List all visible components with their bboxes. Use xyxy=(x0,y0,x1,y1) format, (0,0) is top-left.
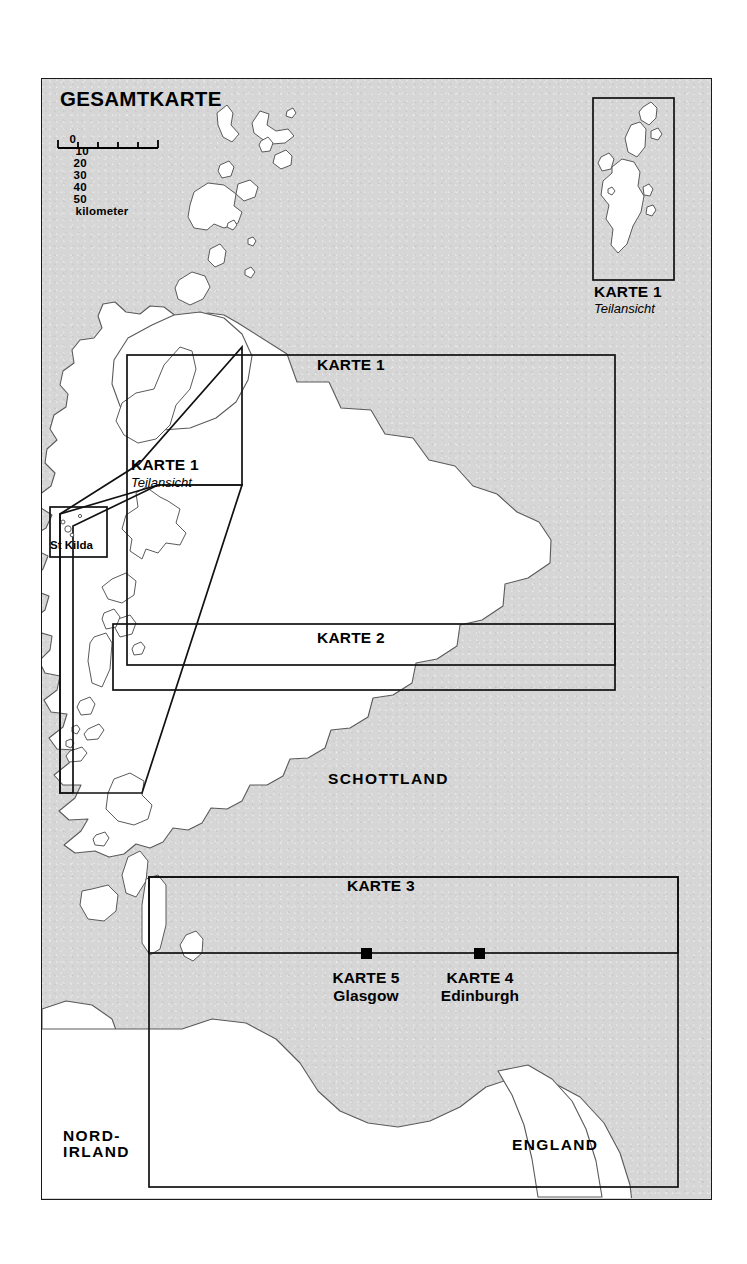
land-st-kilda-dun xyxy=(70,533,74,537)
inset-st-kilda-label: St Kilda xyxy=(50,540,93,552)
city-sheet-label-edinburgh: KARTE 4 xyxy=(424,970,536,986)
region-label-schottland: SCHOTTLAND xyxy=(328,771,449,787)
scale-tick-40: 40 xyxy=(70,181,87,193)
scale-bar-ruler xyxy=(56,138,176,150)
region-label-england: ENGLAND xyxy=(512,1137,598,1153)
inset-shetland-sheet-label: KARTE 1 xyxy=(594,284,662,300)
inset-hebrides-sheet-label: KARTE 1 xyxy=(131,457,199,473)
land-st-kilda-boreray xyxy=(61,520,65,524)
scale-tick-30: 30 xyxy=(70,169,87,181)
city-name-label-glasgow: Glasgow xyxy=(311,988,421,1004)
city-marker-edinburgh xyxy=(474,948,485,959)
city-name-label-edinburgh: Edinburgh xyxy=(424,988,536,1004)
scale-unit-label: kilometer xyxy=(70,205,129,217)
region-label-nordirland: NORD- IRLAND xyxy=(63,1128,130,1160)
city-sheet-label-glasgow: KARTE 5 xyxy=(311,970,421,986)
inset-hebrides-sub-label: Teilansicht xyxy=(131,476,192,490)
inset-shetland-sub-label: Teilansicht xyxy=(594,302,655,316)
sheet-label-karte-1: KARTE 1 xyxy=(317,357,385,373)
city-marker-glasgow xyxy=(361,948,372,959)
scale-tick-50: 50 xyxy=(70,193,87,205)
sheet-label-karte-2: KARTE 2 xyxy=(317,630,385,646)
land-st-kilda-hirta xyxy=(65,526,71,532)
sheet-label-karte-3: KARTE 3 xyxy=(347,878,415,894)
land-st-kilda-islet xyxy=(78,514,81,517)
scale-tick-20: 20 xyxy=(70,157,87,169)
map-page: GESAMTKARTE 0 10 20 30 40 50 kilometer K… xyxy=(0,0,747,1264)
page-title: GESAMTKARTE xyxy=(60,88,222,109)
